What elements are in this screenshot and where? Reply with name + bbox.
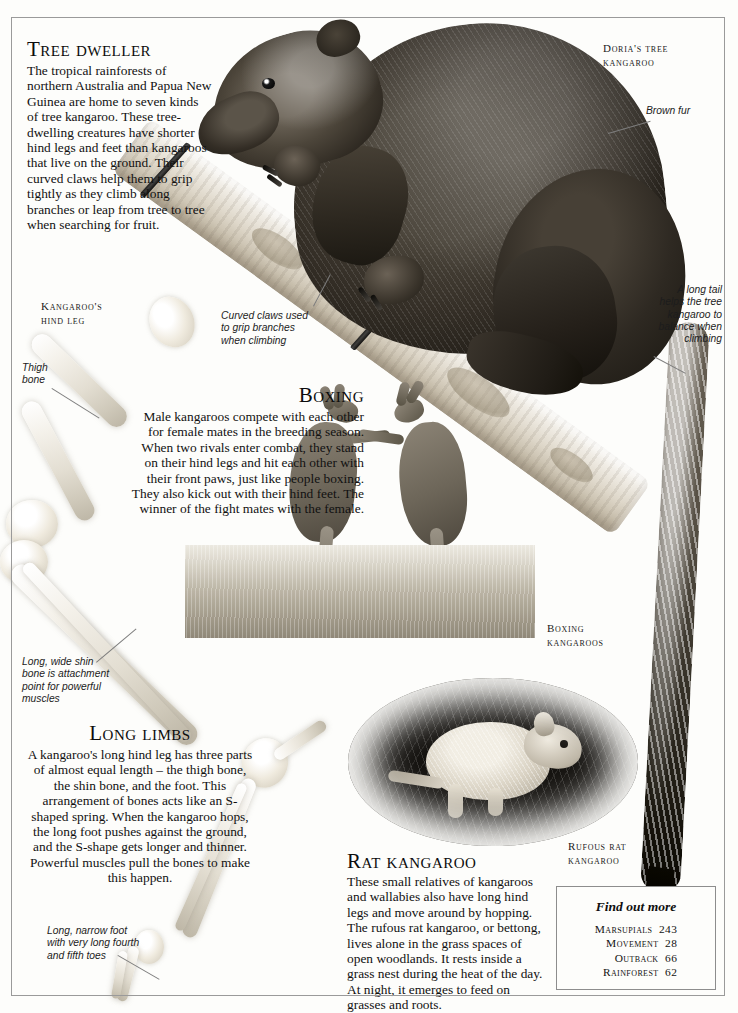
encyclopedia-page: Tree dweller The tropical rainforests of… — [0, 0, 738, 1013]
long-limbs-article: Long limbs A kangaroo's long hind leg ha… — [26, 722, 254, 886]
tree-kangaroo-tail — [640, 321, 710, 892]
find-out-more-entry[interactable]: Outback 66 — [595, 951, 677, 965]
tree-dweller-article: Tree dweller The tropical rainforests of… — [27, 38, 212, 233]
rat-kangaroo-heading: Rat kangaroo — [347, 850, 543, 872]
boxing-heading: Boxing — [128, 384, 364, 406]
find-out-more-entry[interactable]: Rainforest 62 — [595, 965, 677, 979]
rat-kangaroo-body: These small relatives of kangaroos and w… — [347, 874, 543, 1013]
entry-page: 243 — [652, 923, 677, 935]
find-out-more-title: Find out more — [596, 899, 676, 915]
entry-page: 66 — [659, 952, 678, 964]
boxing-body: Male kangaroos compete with each other f… — [128, 409, 364, 517]
oval-vignette — [348, 678, 638, 846]
label-dorias-tree-kangaroo: Doria's tree kangaroo — [603, 42, 668, 69]
label-boxing-kangaroos: Boxing kangaroos — [547, 622, 604, 649]
entry-page: 28 — [659, 937, 678, 949]
entry-page: 62 — [659, 966, 678, 978]
label-rufous-rat-kangaroo: Rufous rat kangaroo — [568, 840, 626, 867]
entry-topic: Rainforest — [603, 966, 659, 978]
annotation-curved-claws: Curved claws used to grip branches when … — [221, 310, 308, 347]
femur-head — [141, 289, 202, 354]
entry-topic: Outback — [615, 952, 659, 964]
find-out-more-list: Marsupials 243Movement 28Outback 66Rainf… — [595, 922, 677, 980]
tree-dweller-heading: Tree dweller — [27, 38, 212, 60]
entry-topic: Movement — [606, 937, 658, 949]
boxing-article: Boxing Male kangaroos compete with each … — [128, 384, 364, 517]
find-out-more-entry[interactable]: Movement 28 — [595, 936, 677, 950]
long-limbs-heading: Long limbs — [26, 722, 254, 744]
ankle-spur — [272, 718, 328, 762]
long-limbs-body: A kangaroo's long hind leg has three par… — [26, 747, 254, 886]
find-out-more-box: Find out more Marsupials 243Movement 28O… — [556, 886, 716, 990]
annotation-brown-fur: Brown fur — [646, 105, 690, 117]
rat-kangaroo-article: Rat kangaroo These small relatives of ka… — [347, 850, 543, 1013]
tree-dweller-body: The tropical rainforests of northern Aus… — [27, 63, 212, 232]
rufous-rat-kangaroo-photo — [348, 678, 638, 846]
annotation-long-tail: A long tail helps the tree kangaroo to b… — [650, 284, 722, 345]
boxing-photo-panel — [185, 545, 535, 638]
label-kangaroos-hind-leg: Kangaroo's hind leg — [41, 300, 102, 327]
entry-topic: Marsupials — [595, 923, 653, 935]
branch-knot — [545, 441, 598, 488]
annotation-shin-bone: Long, wide shin bone is attachment point… — [22, 656, 109, 705]
annotation-thigh-bone: Thigh bone — [22, 362, 48, 387]
kangaroo-eye — [262, 78, 275, 89]
find-out-more-entry[interactable]: Marsupials 243 — [595, 922, 677, 936]
annotation-narrow-foot: Long, narrow foot with very long fourth … — [47, 925, 139, 962]
